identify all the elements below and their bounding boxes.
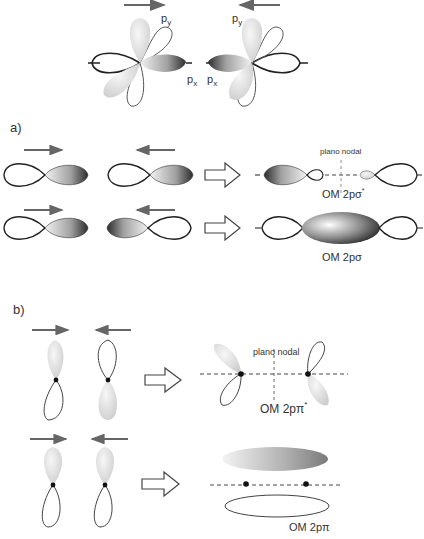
py-lobe-shaded-up xyxy=(130,18,150,63)
mo-label-sigma: OM 2pσ xyxy=(322,251,362,263)
section-b-label: b) xyxy=(13,302,25,317)
mo-label-sigma-star: OM 2pσ* xyxy=(322,187,365,200)
nodal-plane-label: plano nodal xyxy=(253,347,300,357)
mo-label-pi-star: OM 2pπ* xyxy=(260,400,307,416)
py-lobe-shaded-down xyxy=(104,63,140,98)
p-orbital-a2-right xyxy=(107,217,191,240)
label-px-right: px xyxy=(207,73,217,88)
sigma-antibonding-row: plano nodal OM 2pσ* xyxy=(4,147,422,200)
mo-pi: OM 2pπ xyxy=(210,447,342,533)
section-a-label: a) xyxy=(10,120,22,135)
mo-label-pi: OM 2pπ xyxy=(289,521,330,533)
p-orbital-a2-left xyxy=(4,217,88,240)
combine-arrow xyxy=(205,163,240,187)
p-orbital-b1-right xyxy=(98,340,117,420)
p-orbital-b2-right xyxy=(94,447,114,527)
py-lobe-shaded-up-r xyxy=(242,18,262,63)
nodal-plane-label: plano nodal xyxy=(320,147,362,156)
sigma-bonding-row: OM 2pσ xyxy=(4,210,423,263)
combine-arrow xyxy=(205,216,240,240)
p-orbital-b2-left xyxy=(42,447,62,527)
molecular-orbital-diagram: py px py px a) xyxy=(0,0,424,539)
label-py-left: py xyxy=(161,12,171,27)
mo-sigma-star: plano nodal OM 2pσ* xyxy=(255,147,422,200)
pi-bonding-row: OM 2pπ xyxy=(30,439,342,533)
combine-arrow xyxy=(145,368,181,392)
p-orbital-a1-left xyxy=(4,164,88,187)
px-lobe-shaded-right xyxy=(140,55,186,72)
combine-arrow xyxy=(142,472,179,496)
pi-antibonding-row: plano nodal OM 2pπ* xyxy=(32,330,348,420)
right-p-orbital-set: py px xyxy=(206,12,308,106)
label-px-left: px xyxy=(187,73,197,88)
mo-pi-star: plano nodal OM 2pπ* xyxy=(200,342,348,416)
left-p-orbital-set: py px xyxy=(88,12,197,106)
top-orbital-pair: py px py px xyxy=(88,5,308,106)
px-lobe-outline-right xyxy=(252,53,300,73)
label-py-right: py xyxy=(232,12,242,27)
mo-sigma: OM 2pσ xyxy=(255,212,423,263)
p-orbital-b1-left xyxy=(44,340,63,420)
p-orbital-a1-right xyxy=(108,164,193,187)
